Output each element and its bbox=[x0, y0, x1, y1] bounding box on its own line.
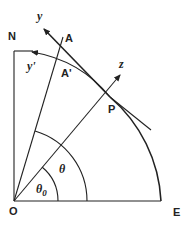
y-axis-line bbox=[44, 29, 110, 97]
diagram-canvas: N y A y' A' z P θ θ0 O E bbox=[0, 0, 191, 232]
label-n: N bbox=[8, 30, 16, 42]
label-y-prime: y' bbox=[25, 59, 36, 73]
label-e: E bbox=[173, 206, 180, 218]
label-theta0: θ0 bbox=[36, 182, 47, 198]
z-axis-line bbox=[14, 75, 120, 201]
label-p: P bbox=[108, 103, 115, 115]
label-a-prime: A' bbox=[61, 67, 72, 79]
line-o-a bbox=[14, 37, 63, 201]
label-o: O bbox=[9, 205, 18, 217]
outer-arc-lower bbox=[110, 97, 161, 201]
label-z: z bbox=[118, 57, 124, 71]
label-a: A bbox=[65, 32, 73, 44]
label-theta: θ bbox=[59, 162, 66, 176]
tangent-line-extension bbox=[110, 97, 151, 130]
label-y: y bbox=[35, 9, 43, 23]
label-theta0-sub: 0 bbox=[42, 188, 47, 198]
